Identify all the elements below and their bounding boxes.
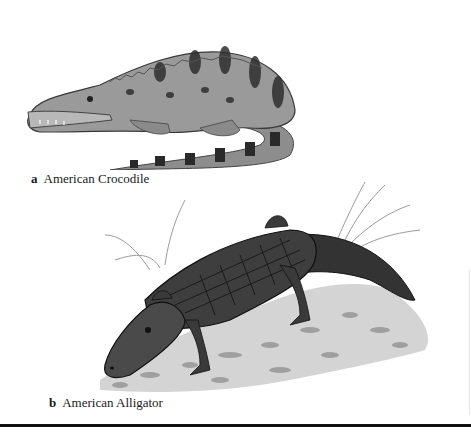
figure: aAmerican Crocodile	[0, 0, 471, 443]
panel-a-letter: a	[31, 171, 38, 186]
figure-bottom-rule	[0, 424, 471, 427]
panel-b-caption: bAmerican Alligator	[49, 396, 163, 410]
american-alligator-illustration	[90, 180, 435, 395]
american-crocodile-illustration	[20, 20, 320, 170]
panel-b-label: American Alligator	[62, 395, 163, 410]
panel-b-letter: b	[49, 395, 56, 410]
right-edge-line	[469, 270, 470, 415]
